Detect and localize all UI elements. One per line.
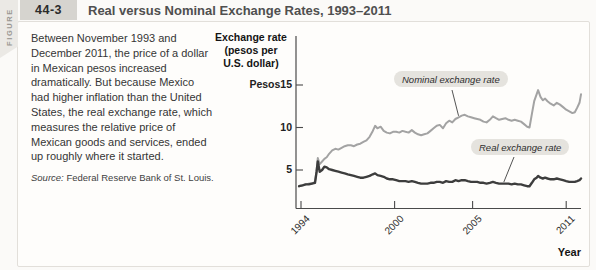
y-axis-title-line1: Exchange rate bbox=[203, 31, 299, 44]
y-tick-label: 5 bbox=[200, 163, 292, 175]
y-tick-label: 10 bbox=[200, 121, 292, 133]
x-axis-title: Year bbox=[531, 246, 581, 258]
y-tick-label: Pesos15 bbox=[200, 78, 292, 90]
real-series-label: Real exchange rate bbox=[471, 139, 569, 155]
source-note: Source: Federal Reserve Bank of St. Loui… bbox=[31, 172, 214, 184]
nominal-series-label: Nominal exchange rate bbox=[394, 71, 508, 87]
y-axis-title-line3: U.S. dollar) bbox=[203, 57, 299, 70]
source-text: Federal Reserve Bank of St. Louis. bbox=[66, 172, 213, 183]
y-axis-title: Exchange rate (pesos per U.S. dollar) bbox=[203, 31, 299, 70]
source-label: Source: bbox=[31, 172, 64, 183]
callout-line bbox=[452, 90, 459, 116]
caption-block: Between November 1993 and December 2011,… bbox=[31, 31, 214, 184]
figure-vertical-label: FIGURE bbox=[5, 8, 14, 46]
callout-line bbox=[504, 157, 514, 182]
y-axis-title-line2: (pesos per bbox=[203, 44, 299, 57]
real-exchange-rate-line bbox=[299, 162, 581, 187]
figure-title: Real versus Nominal Exchange Rates, 1993… bbox=[88, 3, 392, 18]
caption-text: Between November 1993 and December 2011,… bbox=[31, 31, 214, 164]
figure-number-badge: 44-3 bbox=[20, 0, 77, 20]
